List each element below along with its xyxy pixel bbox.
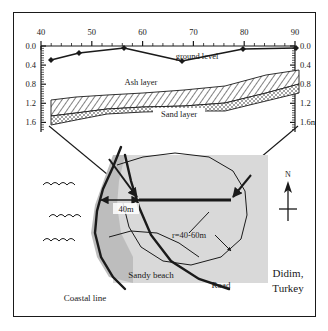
y-right-tick-label: 0.0 [300,41,311,51]
y-left-tick-label: 0.0 [25,41,36,51]
place-label-line1: Didim, [273,267,304,279]
x-tick-label: 60 [138,27,147,37]
north-arrow-icon [279,181,297,221]
x-tick-label: 40 [37,27,46,37]
x-tick-label: 90 [291,27,300,37]
y-right-tick-label: 0.8 [300,79,311,89]
y-right-tick-label: 1.2 [300,98,311,108]
place-label-line2: Turkey [272,282,304,294]
y-left-tick-label: 1.2 [25,98,36,108]
distance-label: 40m [118,204,134,214]
y-right-tick-label: 0.4 [300,60,311,70]
figure-root: 40 50 60 70 80 90 [0,0,328,331]
sandy-beach-label: Sandy beach [128,270,174,280]
site-map-panel: N 40m r=40-60m Sandy beach Road Coastal … [13,137,316,317]
x-tick-label: 50 [88,27,97,37]
radius-label: r=40-60m [172,230,206,240]
ground-level-line [51,48,296,61]
y-left-tick-label: 0.4 [25,60,36,70]
ash-layer-label: Ash layer [125,77,158,87]
sea-wave-icon [43,183,81,242]
inland-area [113,155,268,283]
ground-level-label: ground level [176,51,219,61]
x-tick-label: 70 [189,27,198,37]
north-label: N [285,170,291,179]
coastal-line-label: Coastal line [64,293,107,303]
road-label: Road [212,280,231,290]
y-left-tick-label: 0.8 [25,79,36,89]
x-tick-label: 80 [240,27,249,37]
